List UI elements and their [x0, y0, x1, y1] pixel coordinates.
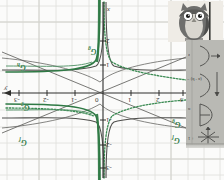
- note-annotation: z: [188, 52, 190, 57]
- x-tick-label: 2: [156, 96, 160, 103]
- x-tick-label: -3: [14, 96, 20, 103]
- curve-label-g-right-2: Gf: [172, 134, 180, 144]
- curve-label-g-lower: Gg: [21, 101, 30, 111]
- curve-label-g-right-1: Gg: [172, 118, 181, 128]
- curve-label-g-bottom: Gf: [19, 136, 27, 146]
- x-tick-label: 1: [128, 96, 132, 103]
- notes-panel: z (a - b) = n x + 1: [186, 40, 224, 145]
- notes-sketches: [186, 40, 224, 145]
- x-tick-label: -1: [71, 96, 77, 103]
- y-tick-label: -2: [106, 141, 112, 148]
- x-tick-label: 3: [180, 96, 184, 103]
- note-annotation: n: [188, 106, 190, 111]
- origin-label: 0: [95, 96, 99, 103]
- x-tick-label: -2: [43, 96, 49, 103]
- owl-figure-photo: [168, 1, 223, 42]
- note-annotation: (a - b) =: [187, 76, 202, 81]
- curve-label-g-left: Gh: [17, 61, 26, 71]
- y-tick-label: 2: [106, 37, 110, 44]
- curve-label-g-top: Gg: [88, 45, 97, 55]
- notes-panel-shadow: [186, 143, 224, 148]
- y-tick-label: -1: [106, 116, 112, 123]
- graph-photo-scan: -3 -2 -1 1 2 3 2 1 -1 -2 -3 0 x y Gg Gh …: [0, 0, 224, 180]
- note-annotation: x: [208, 126, 210, 131]
- y-tick-label: 1: [106, 61, 110, 68]
- note-annotation: + 1: [188, 135, 194, 140]
- y-tick-label: -3: [106, 164, 112, 171]
- y-axis-name: y: [4, 85, 7, 92]
- x-axis-name: x: [107, 6, 110, 13]
